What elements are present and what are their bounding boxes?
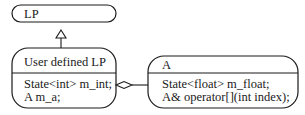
inheritance-arrow-icon xyxy=(56,30,66,38)
edge-inheritance xyxy=(56,30,66,48)
node-user-lp-member: A m_a; xyxy=(24,90,60,104)
node-lp[interactable]: LP xyxy=(12,5,116,22)
node-user-defined-lp[interactable]: User defined LP State<int> m_int; A m_a; xyxy=(12,48,116,108)
node-user-lp-member: State<int> m_int; xyxy=(24,77,112,91)
node-a-member: A& operator[](int index); xyxy=(162,90,290,104)
node-lp-title: LP xyxy=(24,7,39,21)
node-a-title: A xyxy=(162,58,171,72)
node-user-lp-title: User defined LP xyxy=(24,55,106,69)
node-a-member: State<float> m_float; xyxy=(162,77,269,91)
node-a[interactable]: A State<float> m_float; A& operator[](in… xyxy=(148,56,298,108)
aggregation-diamond-icon xyxy=(116,82,132,89)
edge-aggregation xyxy=(116,82,148,89)
diagram-canvas: LP User defined LP State<int> m_int; A m… xyxy=(0,0,305,115)
